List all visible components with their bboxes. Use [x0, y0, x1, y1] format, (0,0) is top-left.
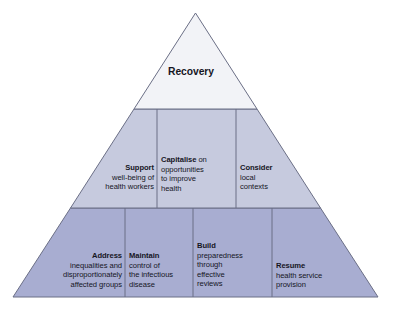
block-recovery-title: Recovery: [138, 66, 244, 78]
block-consider-title: Consider: [240, 163, 310, 173]
block-maintain-title: Maintain: [129, 251, 191, 261]
block-support-title: Support: [72, 163, 154, 173]
block-address-line-1: inequalities and: [28, 261, 122, 271]
pyramid-text-layer: Recovery Support well-being of health wo…: [0, 0, 393, 310]
block-capitalise-line-1: opportunities: [161, 165, 233, 175]
block-resume-line-1: health service: [276, 271, 354, 281]
block-capitalise-title-line: Capitalise on: [161, 155, 233, 165]
block-maintain-line-2: the infectious: [129, 270, 191, 280]
block-address-line-3: affected groups: [28, 280, 122, 290]
block-consider-line-1: local: [240, 173, 310, 183]
block-address: Address inequalities and disproportionat…: [28, 251, 122, 289]
block-resume-line-2: provision: [276, 280, 354, 290]
block-address-title: Address: [28, 251, 122, 261]
block-support-line-1: well-being of: [72, 173, 154, 183]
block-build-line-1: preparedness: [197, 251, 269, 261]
block-consider-line-2: contexts: [240, 182, 310, 192]
block-capitalise: Capitalise on opportunities to improve h…: [161, 155, 233, 193]
block-capitalise-line-3: health: [161, 184, 233, 194]
block-build-line-3: effective: [197, 270, 269, 280]
block-capitalise-title: Capitalise: [161, 155, 196, 164]
block-address-line-2: disproportionately: [28, 270, 122, 280]
block-build: Build preparedness through effective rev…: [197, 241, 269, 289]
block-build-line-4: reviews: [197, 279, 269, 289]
block-resume: Resume health service provision: [276, 261, 354, 290]
block-capitalise-title-suffix: on: [196, 155, 206, 164]
block-maintain-line-1: control of: [129, 261, 191, 271]
recovery-pyramid-diagram: Recovery Support well-being of health wo…: [0, 0, 393, 310]
block-support-line-2: health workers: [72, 182, 154, 192]
block-maintain: Maintain control of the infectious disea…: [129, 251, 191, 289]
block-maintain-line-3: disease: [129, 280, 191, 290]
block-recovery: Recovery: [138, 66, 244, 78]
block-capitalise-line-2: to improve: [161, 174, 233, 184]
block-consider: Consider local contexts: [240, 163, 310, 192]
block-build-line-2: through: [197, 260, 269, 270]
block-resume-title: Resume: [276, 261, 354, 271]
block-build-title: Build: [197, 241, 269, 251]
block-support: Support well-being of health workers: [72, 163, 154, 192]
